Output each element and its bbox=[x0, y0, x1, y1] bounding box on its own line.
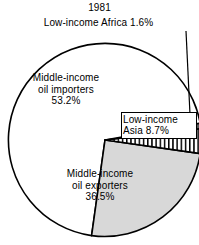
slice-label-line-2: Asia 8.7% bbox=[123, 125, 195, 136]
slice-label-line-1: Low-income bbox=[123, 114, 195, 125]
pie-chart-figure: 1981 Low-income Africa 1.6% Middle-incom… bbox=[0, 0, 199, 245]
slice-label-value: 53.2% bbox=[14, 95, 118, 107]
slice-label-middle-income-oil-importers: Middle-income oil importers 53.2% bbox=[14, 72, 118, 107]
slice-label-middle-income-oil-exporters: Middle-income oil exporters 36.5% bbox=[44, 168, 156, 203]
slice-label-line-2: oil exporters bbox=[44, 180, 156, 192]
slice-label-value: 36.5% bbox=[44, 191, 156, 203]
slice-label-low-income-asia: Low-income Asia 8.7% bbox=[121, 112, 197, 139]
slice-label-line-1: Middle-income bbox=[14, 72, 118, 84]
slice-label-line-1: Middle-income bbox=[44, 168, 156, 180]
slice-label-line-2: oil importers bbox=[14, 84, 118, 96]
